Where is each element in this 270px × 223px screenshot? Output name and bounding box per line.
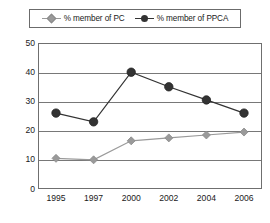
data-point <box>240 109 248 117</box>
data-point <box>89 118 97 126</box>
x-tick-label: 1997 <box>74 194 114 203</box>
y-tick-label: 20 <box>5 126 35 135</box>
y-tick-label: 30 <box>5 97 35 106</box>
x-tick-label: 2002 <box>149 194 189 203</box>
y-tick-label: 40 <box>5 68 35 77</box>
x-tick-label: 2006 <box>224 194 264 203</box>
legend-item-pc: % member of PC <box>42 14 125 23</box>
legend-label-pc: % member of PC <box>64 14 125 23</box>
data-point <box>165 134 173 142</box>
series-line-pc <box>56 132 244 160</box>
data-point <box>52 154 60 162</box>
data-point <box>165 83 173 91</box>
data-point <box>127 137 135 145</box>
y-tick-label: 50 <box>5 39 35 48</box>
legend-item-ppca: % member of PPCA <box>135 14 229 23</box>
data-point <box>90 156 98 164</box>
x-tick-label: 1995 <box>36 194 76 203</box>
legend-label-ppca: % member of PPCA <box>157 14 229 23</box>
x-tick-label: 2000 <box>111 194 151 203</box>
line-chart: % member of PC % member of PPCA 01020304… <box>0 0 270 223</box>
x-tick-label: 2004 <box>186 194 226 203</box>
data-point <box>240 128 248 136</box>
y-tick-label: 0 <box>5 185 35 194</box>
chart-legend: % member of PC % member of PPCA <box>29 9 241 28</box>
y-tick-label: 10 <box>5 155 35 164</box>
circle-marker-icon <box>135 14 154 23</box>
diamond-marker-icon <box>42 14 61 23</box>
data-point <box>127 68 135 76</box>
data-point <box>202 96 210 104</box>
data-point <box>202 131 210 139</box>
data-point <box>52 109 60 117</box>
series-layer <box>38 43 262 189</box>
series-line-ppca <box>56 72 244 122</box>
